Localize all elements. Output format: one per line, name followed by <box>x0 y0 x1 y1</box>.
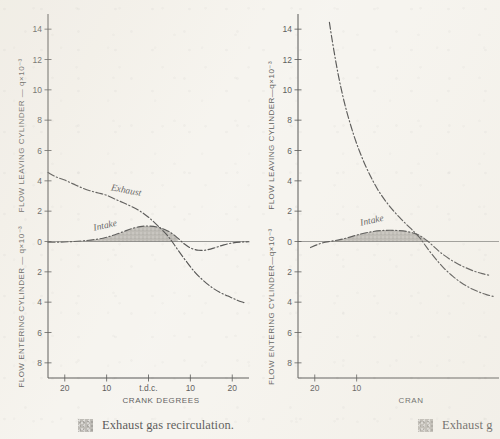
x-tick-label: 20 <box>60 383 70 393</box>
y-axis-title-upper: FLOW LEAVING CYLINDER—q×10⁻³ <box>267 61 276 210</box>
y-tick-label: 0 <box>287 237 292 247</box>
exhaust-gas-recirculation-area <box>332 230 428 241</box>
x-tick-label: 10 <box>352 383 362 393</box>
y-tick-label: 6 <box>287 146 292 156</box>
y-tick-label: 4 <box>287 297 292 307</box>
exhaust-gas-recirculation-swatch <box>78 419 93 432</box>
y-tick-label: 8 <box>37 115 42 125</box>
y-axis-title-upper: FLOW LEAVING CYLINDER — q×10⁻³ <box>17 58 26 212</box>
plot-left: 1412108642024682010t.d.c.1020CRANK DEGRE… <box>0 0 250 410</box>
caption-right-text: Exhaust g <box>442 418 493 433</box>
y-tick-label: 2 <box>37 267 42 277</box>
y-tick-label: 14 <box>283 24 293 34</box>
figure-two-panel-flow-charts: 1412108642024682010t.d.c.1020CRANK DEGRE… <box>0 0 500 439</box>
series-label-exhaust: Exhaust <box>109 182 142 198</box>
caption-left-text: Exhaust gas recirculation. <box>102 418 234 433</box>
chart-panel-left: 1412108642024682010t.d.c.1020CRANK DEGRE… <box>0 0 250 439</box>
y-tick-label: 10 <box>283 85 293 95</box>
y-tick-label: 8 <box>287 115 292 125</box>
x-tick-label: t.d.c. <box>139 383 157 393</box>
y-tick-label: 8 <box>287 358 292 368</box>
exhaust-gas-recirculation-swatch <box>418 419 433 432</box>
caption-right: Exhaust g <box>418 418 493 433</box>
x-tick-label: 20 <box>228 383 238 393</box>
x-tick-label: 20 <box>310 383 320 393</box>
x-tick-label: 10 <box>102 383 112 393</box>
y-tick-label: 4 <box>37 297 42 307</box>
series-label-intake: Intake <box>358 213 384 228</box>
y-tick-label: 10 <box>33 85 43 95</box>
y-tick-label: 6 <box>37 328 42 338</box>
y-tick-label: 12 <box>283 55 293 65</box>
x-axis-title: CRANK DEGREES <box>122 396 199 405</box>
y-tick-label: 8 <box>37 358 42 368</box>
x-axis-title: CRAN <box>399 396 424 405</box>
curve-exhaust <box>329 22 494 297</box>
y-tick-label: 6 <box>287 328 292 338</box>
y-tick-label: 6 <box>37 146 42 156</box>
y-tick-label: 2 <box>37 206 42 216</box>
y-tick-label: 0 <box>37 237 42 247</box>
x-tick-label: 10 <box>186 383 196 393</box>
y-tick-label: 4 <box>37 176 42 186</box>
y-axis-title-lower: FLOW ENTERING CYLINDER — q×10⁻³ <box>17 226 26 388</box>
chart-panel-right: 1412108642024682010CRANFLOW LEAVING CYLI… <box>250 0 500 439</box>
y-tick-label: 2 <box>287 267 292 277</box>
y-axis-title-lower: FLOW ENTERING CYLINDER—q×10⁻³ <box>267 228 276 385</box>
y-tick-label: 12 <box>33 55 43 65</box>
y-tick-label: 2 <box>287 206 292 216</box>
plot-right: 1412108642024682010CRANFLOW LEAVING CYLI… <box>250 0 500 410</box>
y-tick-label: 4 <box>287 176 292 186</box>
y-tick-label: 14 <box>33 24 43 34</box>
series-label-intake: Intake <box>91 218 117 233</box>
caption-left: Exhaust gas recirculation. <box>78 418 234 433</box>
